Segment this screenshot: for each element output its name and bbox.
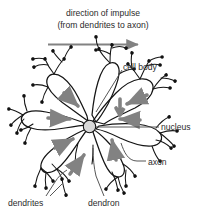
impulse-arrow-top [116,99,124,115]
label-axon: axon [148,157,167,167]
impulse-arrow-right [120,119,140,120]
impulse-arrow-lower-right [112,140,116,160]
label-cell-body: cell body [123,62,157,72]
leader-dendron [93,148,104,196]
impulse-arrows-on-dendrons [48,93,147,174]
neuron-illustration [0,0,206,221]
leader-dendrites-b [50,184,62,196]
impulse-arrow-upper-left [64,93,78,106]
impulse-arrow-lower-left [70,155,84,174]
label-dendrites: dendrites [8,198,43,208]
impulse-arrow-left [48,118,70,119]
label-dendron: dendron [88,198,120,208]
label-leader-lines [46,70,159,196]
neuron-diagram-figure: direction of impulse (from dendrites to … [0,0,206,221]
label-nucleus: nucleus [161,122,191,132]
